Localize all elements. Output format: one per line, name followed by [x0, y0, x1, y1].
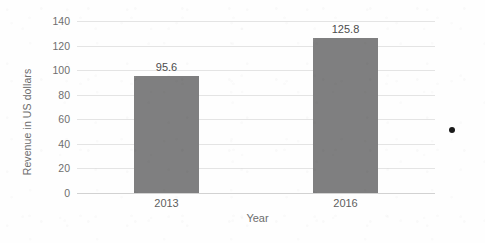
y-axis-tick-label: 140: [52, 15, 70, 27]
bar[interactable]: [313, 38, 378, 193]
y-axis-tick-label: 40: [58, 138, 70, 150]
bar-group: 95.6: [134, 21, 199, 193]
bar-value-label: 125.8: [332, 23, 360, 35]
x-axis-category-label: 2016: [333, 197, 357, 209]
bar-chart: Revenue in US dollars 140120100806040200…: [0, 0, 485, 243]
gridline: 0: [77, 193, 435, 194]
y-axis-tick-label: 20: [58, 162, 70, 174]
bar-value-label: 95.6: [156, 61, 177, 73]
y-axis-title: Revenue in US dollars: [18, 0, 36, 243]
plot-area: 140120100806040200 95.6125.8: [77, 21, 435, 193]
bar-group: 125.8: [313, 21, 378, 193]
y-axis-title-label: Revenue in US dollars: [21, 68, 33, 175]
scan-artifact-dot: [449, 127, 455, 133]
y-axis-tick-label: 100: [52, 64, 70, 76]
y-axis-tick-label: 120: [52, 40, 70, 52]
x-axis-title: Year: [0, 212, 485, 224]
x-axis-category-label: 2013: [154, 197, 178, 209]
y-axis-tick-label: 0: [64, 187, 70, 199]
y-axis-tick-label: 80: [58, 89, 70, 101]
x-axis-title-label: Year: [216, 212, 268, 224]
bar[interactable]: [134, 76, 199, 193]
y-axis-tick-label: 60: [58, 113, 70, 125]
bars-layer: 95.6125.8: [77, 21, 435, 193]
